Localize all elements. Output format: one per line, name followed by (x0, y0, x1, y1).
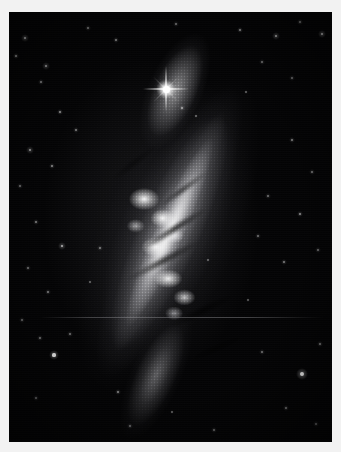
field-star (207, 259, 208, 260)
field-star (40, 81, 42, 83)
field-star (59, 111, 61, 113)
horizontal-scan-line-artifact (40, 317, 323, 318)
field-star (27, 267, 29, 269)
field-star (89, 281, 90, 282)
field-star (181, 107, 183, 109)
field-star (35, 221, 37, 223)
field-star (117, 391, 119, 393)
field-star (115, 39, 117, 41)
field-star (171, 411, 172, 412)
field-star (300, 372, 304, 376)
field-star (39, 337, 41, 339)
star-core (163, 86, 170, 93)
field-star (319, 343, 321, 345)
field-star (299, 21, 301, 23)
field-star (99, 247, 101, 249)
field-star (291, 77, 293, 79)
field-star (299, 213, 301, 215)
field-star (257, 235, 259, 237)
photo-frame (0, 0, 341, 452)
field-star (213, 429, 215, 431)
field-star (239, 29, 241, 31)
field-star (52, 353, 55, 356)
field-star (283, 261, 285, 263)
field-star (47, 291, 49, 293)
field-star (87, 27, 89, 29)
field-star (35, 397, 37, 399)
field-star (75, 129, 77, 131)
field-star (315, 423, 317, 425)
field-star (245, 91, 246, 92)
field-star (19, 185, 21, 187)
field-star (195, 115, 196, 116)
film-grain-overlay (9, 12, 332, 442)
astronomy-photo-plate (9, 12, 332, 442)
field-star (175, 23, 177, 25)
field-star (311, 171, 313, 173)
field-star (291, 139, 293, 141)
field-star (15, 55, 17, 57)
field-star (129, 425, 131, 427)
field-star (69, 333, 71, 335)
field-star (261, 61, 263, 63)
bright-foreground-star (156, 79, 176, 99)
field-star (267, 195, 269, 197)
field-star (285, 407, 287, 409)
field-star (261, 351, 263, 353)
field-star (21, 319, 23, 321)
field-star (51, 165, 53, 167)
field-star (317, 249, 319, 251)
field-star (247, 299, 248, 300)
